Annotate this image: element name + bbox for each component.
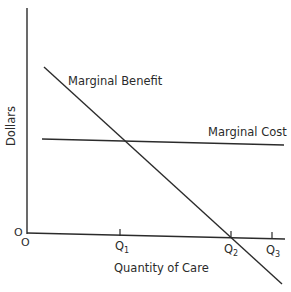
origin-label-x: O — [21, 236, 30, 249]
y-axis-title: Dollars — [4, 106, 18, 146]
x-axis — [27, 233, 285, 239]
q1-label: Q1 — [115, 239, 129, 255]
x-axis-title: Quantity of Care — [114, 261, 209, 275]
mc-label: Marginal Cost — [208, 125, 287, 139]
mb-label: Marginal Benefit — [68, 74, 163, 88]
marginal-benefit-line — [44, 67, 282, 284]
q2-label: Q2 — [224, 242, 238, 258]
marginal-cost-line — [42, 139, 284, 145]
q3-label: Q3 — [266, 243, 280, 259]
marginal-analysis-chart: Marginal Benefit Marginal Cost Dollars Q… — [0, 0, 291, 292]
